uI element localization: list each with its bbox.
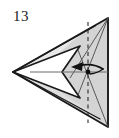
origami-figure: 13	[0, 0, 119, 138]
fold-diagram-svg	[0, 0, 119, 138]
fold-pivot-dot	[86, 70, 91, 75]
